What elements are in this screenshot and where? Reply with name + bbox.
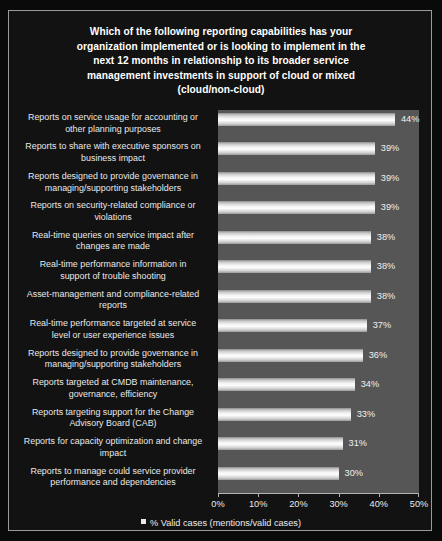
x-tick-mark [379,493,380,497]
bar [218,231,371,244]
category-label-line: Reports designed to provide governance i… [17,171,209,183]
x-tick-label: 40% [359,499,399,509]
category-label-line: Reports designed to provide governance i… [17,348,209,360]
chart-panel: Which of the following reporting capabil… [8,10,432,531]
chart-title-line: management investments in support of clo… [35,69,407,84]
category-label: Reports designed to provide governance i… [17,171,209,194]
chart-title-line: (cloud/non-cloud) [35,83,407,98]
bar [218,260,371,273]
bar-value-label: 44% [401,114,419,124]
category-label-line: performance and dependencies [17,477,209,489]
category-label-line: Real-time performance information in [17,259,209,271]
bar-row: Real-time performance information insupp… [9,257,431,286]
bar-value-label: 39% [381,143,399,153]
x-tick-mark [418,493,419,497]
chart-title-line: organization implemented or is looking t… [35,40,407,55]
category-label-line: governance, efficiency [17,389,209,401]
category-label-line: managing/supporting stakeholders [17,359,209,371]
bar [218,408,351,421]
bar-value-label: 38% [377,291,395,301]
x-tick-mark [339,493,340,497]
category-label: Reports to manage could service provider… [17,466,209,489]
bar-row: Reports on service usage for accounting … [9,110,431,139]
bar-row: Asset-management and compliance-relatedr… [9,287,431,316]
category-label: Reports to share with executive sponsors… [17,141,209,164]
bar-value-label: 39% [381,173,399,183]
legend-label: % Valid cases (mentions/valid cases) [150,518,301,528]
bar [218,142,375,155]
category-label: Reports targeted at CMDB maintenance,gov… [17,377,209,400]
category-label-line: reports [17,300,209,312]
bar [218,437,343,450]
bar [218,201,375,214]
bar [218,290,371,303]
bar-value-label: 38% [377,232,395,242]
bar-row: Reports to share with executive sponsors… [9,139,431,168]
bar [218,378,355,391]
bar-value-label: 34% [361,379,379,389]
category-label-line: Reports targeting support for the Change [17,407,209,419]
bar [218,113,395,126]
category-label: Reports on service usage for accounting … [17,112,209,135]
x-tick-label: 0% [198,499,238,509]
category-label-line: Reports for capacity optimization and ch… [17,436,209,448]
category-label: Reports targeting support for the Change… [17,407,209,430]
x-tick-mark [298,493,299,497]
bar-row: Reports designed to provide governance i… [9,346,431,375]
bar-row: Reports on security-related compliance o… [9,198,431,227]
bar-row: Reports targeted at CMDB maintenance,gov… [9,375,431,404]
category-label: Reports designed to provide governance i… [17,348,209,371]
x-tick-mark [258,493,259,497]
category-label-line: Reports to manage could service provider [17,466,209,478]
category-label-line: level or user experience issues [17,330,209,342]
category-label-line: Reports to share with executive sponsors… [17,141,209,153]
category-label: Real-time queries on service impact afte… [17,230,209,253]
bar-value-label: 33% [357,409,375,419]
chart-title: Which of the following reporting capabil… [35,25,407,98]
bar-row: Real-time performance targeted at servic… [9,316,431,345]
bar [218,467,339,480]
bar [218,319,367,332]
bar [218,172,375,185]
x-axis-line [218,493,419,494]
category-label: Reports for capacity optimization and ch… [17,436,209,459]
bar-value-label: 39% [381,202,399,212]
category-label-line: Advisory Board (CAB) [17,418,209,430]
bar-row: Reports to manage could service provider… [9,464,431,493]
category-label-line: Reports targeted at CMDB maintenance, [17,377,209,389]
category-label-line: Real-time queries on service impact afte… [17,230,209,242]
bar-value-label: 30% [345,468,363,478]
category-label-line: business impact [17,153,209,165]
category-label-line: managing/supporting stakeholders [17,183,209,195]
bar-value-label: 38% [377,261,395,271]
x-tick-label: 10% [238,499,278,509]
chart-legend: % Valid cases (mentions/valid cases) [9,517,432,528]
bar-value-label: 36% [369,350,387,360]
bar-row: Reports targeting support for the Change… [9,405,431,434]
category-label-line: Reports on security-related compliance o… [17,200,209,212]
bar-row: Real-time queries on service impact afte… [9,228,431,257]
category-label-line: changes are made [17,241,209,253]
bar-value-label: 31% [349,438,367,448]
category-label-line: support of trouble shooting [17,271,209,283]
category-label-line: Real-time performance targeted at servic… [17,318,209,330]
category-label: Real-time performance targeted at servic… [17,318,209,341]
category-label-line: Reports on service usage for accounting … [17,112,209,124]
bar-value-label: 37% [373,320,391,330]
bar [218,349,363,362]
x-tick-mark [218,493,219,497]
chart-title-line: next 12 months in relationship to its br… [35,54,407,69]
category-label-line: violations [17,212,209,224]
category-label-line: other planning purposes [17,124,209,136]
category-label: Asset-management and compliance-relatedr… [17,289,209,312]
category-label-line: impact [17,448,209,460]
category-label: Reports on security-related compliance o… [17,200,209,223]
bar-row: Reports for capacity optimization and ch… [9,434,431,463]
x-tick-label: 30% [319,499,359,509]
chart-title-line: Which of the following reporting capabil… [35,25,407,40]
bar-row: Reports designed to provide governance i… [9,169,431,198]
x-tick-label: 50% [399,499,432,509]
legend-swatch-icon [141,519,146,524]
category-label-line: Asset-management and compliance-related [17,289,209,301]
category-label: Real-time performance information insupp… [17,259,209,282]
